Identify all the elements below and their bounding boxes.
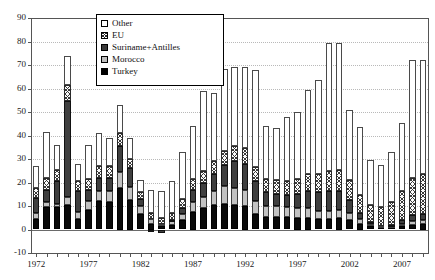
bar-segment bbox=[399, 224, 405, 226]
y-axis-tick-label: 10 bbox=[0, 201, 26, 210]
bar-segment bbox=[211, 174, 217, 190]
bar-segment bbox=[315, 211, 321, 219]
bar-segment bbox=[420, 60, 426, 174]
bar-segment bbox=[64, 85, 70, 101]
y-axis-tick-label: 80 bbox=[0, 37, 26, 46]
y-axis-tick-label: 70 bbox=[0, 60, 26, 69]
gridline bbox=[31, 89, 428, 90]
bar-segment bbox=[315, 174, 321, 192]
bar-segment bbox=[326, 171, 332, 191]
bar-segment bbox=[399, 191, 405, 220]
bar-segment bbox=[33, 166, 39, 188]
bar-segment bbox=[378, 226, 384, 228]
bar-segment bbox=[399, 220, 405, 224]
bar-segment bbox=[305, 174, 311, 190]
bar-segment bbox=[85, 210, 91, 230]
bar-segment bbox=[336, 191, 342, 210]
bar-segment bbox=[294, 194, 300, 208]
bar-segment bbox=[106, 202, 112, 229]
bar-segment bbox=[137, 199, 143, 206]
x-axis-tick-mark bbox=[277, 254, 278, 257]
bar-segment bbox=[43, 202, 49, 207]
bar-segment bbox=[305, 218, 311, 230]
bar-segment bbox=[179, 214, 185, 220]
bar-segment bbox=[64, 101, 70, 196]
bar-segment bbox=[357, 224, 363, 230]
bar-segment bbox=[179, 199, 185, 208]
bar-segment bbox=[54, 181, 60, 203]
y-axis-tick-mark bbox=[28, 136, 31, 137]
bar-segment bbox=[367, 160, 373, 205]
bar-segment bbox=[148, 190, 154, 214]
x-axis-tick-mark bbox=[130, 254, 131, 257]
gridline bbox=[31, 136, 428, 137]
bar-segment bbox=[158, 218, 164, 224]
bar-segment bbox=[127, 187, 133, 200]
bar-segment bbox=[367, 205, 373, 223]
x-axis-tick-mark bbox=[68, 254, 69, 257]
x-axis-tick-label: 1997 bbox=[277, 260, 317, 269]
bar-segment bbox=[200, 197, 206, 209]
bar-segment bbox=[263, 126, 269, 179]
x-axis-tick-mark bbox=[182, 254, 183, 257]
bar-segment bbox=[117, 172, 123, 188]
y-axis-tick-mark bbox=[28, 230, 31, 231]
bar-segment bbox=[127, 200, 133, 229]
bar-segment bbox=[96, 178, 102, 191]
y-axis-tick-label: 0 bbox=[0, 225, 26, 234]
bar-segment bbox=[43, 190, 49, 203]
bar-segment bbox=[357, 219, 363, 224]
bar-segment bbox=[96, 201, 102, 229]
bar-segment bbox=[294, 208, 300, 217]
x-axis-tick-mark bbox=[47, 254, 48, 257]
bar-segment bbox=[346, 200, 352, 213]
bar-segment bbox=[357, 127, 363, 195]
bar-segment bbox=[158, 191, 164, 218]
bar-segment bbox=[33, 213, 39, 219]
gridline bbox=[31, 65, 428, 66]
y-axis-tick-label: 90 bbox=[0, 13, 26, 22]
bar-segment bbox=[190, 179, 196, 190]
bar-segment bbox=[179, 208, 185, 214]
bar-segment bbox=[33, 219, 39, 230]
bar-segment bbox=[200, 91, 206, 171]
bar-segment bbox=[357, 195, 363, 213]
bar-segment bbox=[252, 201, 258, 214]
x-axis-tick-label: 2002 bbox=[330, 260, 370, 269]
bar-segment bbox=[75, 191, 81, 212]
bar-segment bbox=[200, 208, 206, 229]
bar-segment bbox=[305, 191, 311, 209]
x-axis-tick-mark bbox=[350, 254, 351, 257]
bar-segment bbox=[273, 128, 279, 180]
bar-segment bbox=[263, 179, 269, 192]
bar-segment bbox=[75, 181, 81, 190]
bar-segment bbox=[137, 192, 143, 199]
bar-segment bbox=[242, 164, 248, 190]
bar-segment bbox=[211, 161, 217, 174]
bar-segment bbox=[242, 206, 248, 230]
legend-item-label: Turkey bbox=[112, 67, 138, 76]
bar-segment bbox=[273, 206, 279, 217]
bar-segment bbox=[284, 217, 290, 230]
bar-segment bbox=[346, 110, 352, 181]
x-axis-tick-label: 2007 bbox=[382, 260, 422, 269]
bar-segment bbox=[54, 145, 60, 170]
bar-segment bbox=[117, 133, 123, 146]
x-axis-tick-label: 1982 bbox=[121, 260, 161, 269]
bar-segment bbox=[127, 138, 133, 159]
bar-segment bbox=[85, 179, 91, 190]
bar-segment bbox=[336, 170, 342, 191]
legend-item-label: Morocco bbox=[112, 55, 145, 64]
plot-right-border bbox=[428, 18, 429, 254]
x-axis-tick-mark bbox=[339, 254, 340, 257]
x-axis-tick-mark bbox=[381, 254, 382, 257]
bar-segment bbox=[409, 178, 415, 216]
bar-segment bbox=[263, 217, 269, 230]
bar-segment bbox=[409, 60, 415, 178]
bar-segment bbox=[252, 167, 258, 181]
bar-segment bbox=[106, 166, 112, 178]
bar-segment bbox=[54, 207, 60, 229]
bar-segment bbox=[336, 210, 342, 218]
bar-segment bbox=[388, 152, 394, 203]
x-axis-tick-mark bbox=[224, 254, 225, 257]
